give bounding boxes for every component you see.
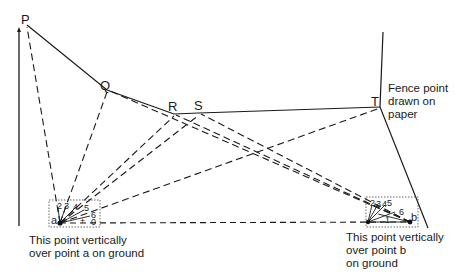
caption-b-line-1: This point vertically — [346, 231, 444, 244]
base-line-ab — [60, 222, 410, 223]
fence-note-line-1: Fence point — [388, 82, 448, 95]
ray-b-5: 5 — [387, 199, 392, 208]
caption-b-line-2: over point b — [346, 244, 444, 257]
ray-b-3: 3 — [376, 200, 381, 209]
label-P: P — [21, 13, 30, 26]
caption-a-line-2: over point a on ground — [29, 247, 144, 260]
caption-a-line-1: This point vertically — [29, 234, 144, 247]
label-Q: Q — [100, 79, 110, 92]
ray-a-5: 5 — [84, 204, 89, 213]
ray-b-2: 2 — [370, 199, 375, 208]
station-b-left-dot — [366, 220, 370, 224]
ray-a-3: 3 — [64, 202, 69, 211]
label-b: b — [411, 211, 417, 224]
rays-from-a — [27, 27, 380, 223]
ray-a-4: 4 — [73, 203, 78, 212]
label-T: T — [371, 95, 379, 108]
ray-b-6: 6 — [399, 208, 404, 217]
label-a: a — [51, 214, 57, 227]
ray-a-2: 2 — [57, 202, 62, 211]
station-a-dot — [57, 220, 62, 225]
caption-b-line-3: on ground — [346, 257, 444, 270]
label-R: R — [168, 100, 177, 113]
fence-note-line-2: drawn on — [388, 95, 448, 108]
caption-b: This point vertically over point b on gr… — [346, 231, 444, 270]
label-S: S — [194, 99, 203, 112]
fence-note: Fence point drawn on paper — [388, 82, 448, 121]
left-arrow-tip — [17, 27, 21, 32]
caption-a: This point vertically over point a on gr… — [29, 234, 144, 260]
fence-note-line-3: paper — [388, 108, 448, 121]
ray-b-1: 1 — [385, 216, 390, 225]
fence-line — [27, 25, 380, 114]
ray-a-0: 0 — [91, 218, 96, 227]
ray-a-plus: + — [80, 217, 85, 226]
